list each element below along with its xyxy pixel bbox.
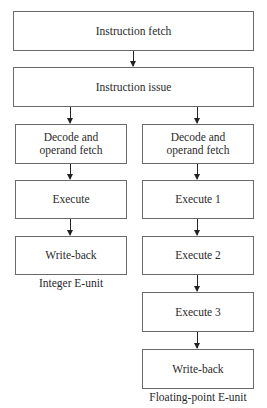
arrow-icon	[70, 107, 71, 123]
arrow-icon	[197, 332, 198, 348]
fp-decode-line1: Decode and	[171, 131, 226, 143]
fp-decode-line2: operand fetch	[167, 144, 230, 156]
fp-decode-box: Decode and operand fetch	[142, 124, 254, 164]
int-decode-label: Decode and operand fetch	[40, 131, 103, 157]
arrow-icon	[70, 164, 71, 179]
fp-writeback-label: Write-back	[172, 363, 223, 376]
integer-unit-caption: Integer E-unit	[15, 277, 127, 289]
instruction-issue-label: Instruction issue	[96, 81, 172, 94]
int-writeback-box: Write-back	[15, 236, 127, 275]
instruction-fetch-label: Instruction fetch	[96, 25, 172, 38]
arrow-icon	[197, 219, 198, 235]
arrow-icon	[70, 219, 71, 235]
fp-execute1-box: Execute 1	[142, 180, 254, 219]
int-decode-box: Decode and operand fetch	[15, 124, 127, 164]
fp-decode-label: Decode and operand fetch	[167, 131, 230, 157]
int-execute-label: Execute	[52, 193, 89, 206]
instruction-fetch-box: Instruction fetch	[13, 11, 254, 51]
fp-writeback-box: Write-back	[142, 349, 254, 389]
instruction-issue-box: Instruction issue	[13, 67, 254, 107]
int-writeback-label: Write-back	[45, 249, 96, 262]
fp-execute3-box: Execute 3	[142, 292, 254, 332]
fp-execute2-label: Execute 2	[175, 249, 221, 262]
int-execute-box: Execute	[15, 180, 127, 219]
arrow-icon	[133, 51, 134, 66]
arrow-icon	[197, 275, 198, 291]
fp-execute1-label: Execute 1	[175, 193, 221, 206]
fp-execute2-box: Execute 2	[142, 236, 254, 275]
fp-execute3-label: Execute 3	[175, 306, 221, 319]
arrow-icon	[197, 164, 198, 179]
float-unit-caption: Floating-point E-unit	[136, 391, 260, 403]
arrow-icon	[197, 107, 198, 123]
int-decode-line1: Decode and	[44, 131, 99, 143]
int-decode-line2: operand fetch	[40, 144, 103, 156]
